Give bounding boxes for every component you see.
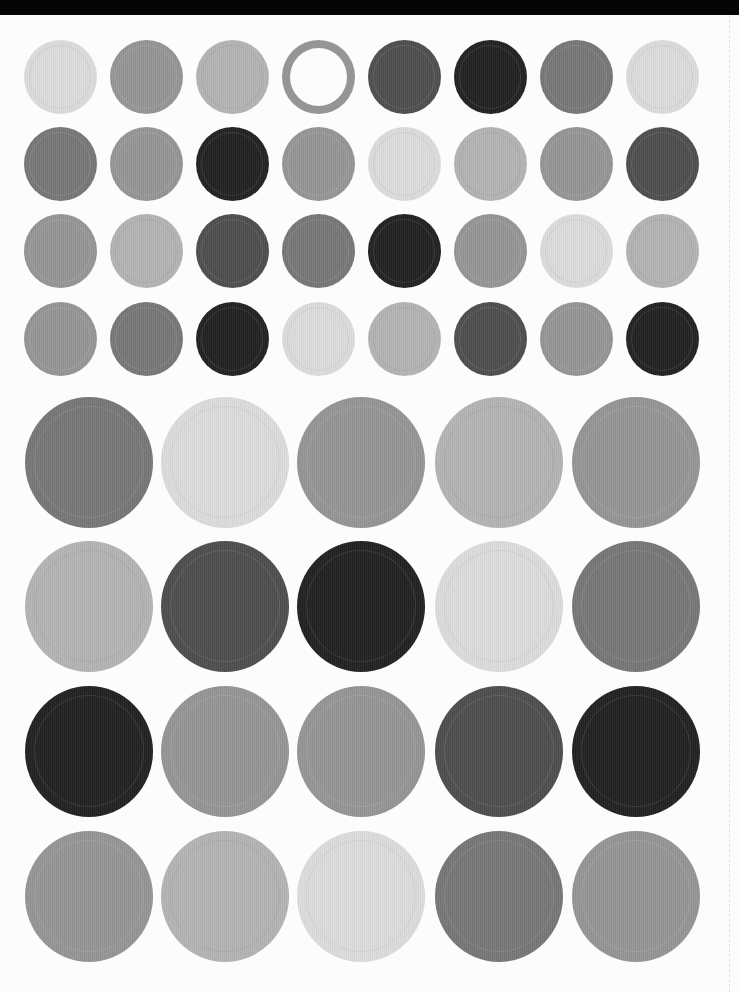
circle-inner-outline [545, 132, 608, 196]
circle-inner-outline [115, 132, 178, 196]
circle-inner-outline [201, 132, 264, 196]
large-grid-circle [572, 831, 700, 962]
circle-inner-outline [631, 307, 694, 371]
circle-inner-outline [306, 550, 416, 663]
circle-inner-outline [373, 219, 436, 283]
large-grid-circle [25, 541, 153, 672]
circle-inner-outline [29, 219, 92, 283]
small-grid-circle [24, 302, 97, 376]
small-grid-circle [368, 214, 441, 288]
circle-inner-outline [581, 550, 691, 663]
circle-inner-outline [373, 132, 436, 196]
small-grid-circle [368, 127, 441, 201]
circle-inner-outline [34, 840, 144, 953]
large-grid-circle [161, 686, 289, 817]
small-grid-circle [626, 40, 699, 114]
small-grid-circle [454, 40, 527, 114]
small-grid-circle [368, 40, 441, 114]
small-grid-circle [110, 302, 183, 376]
small-grid-circle [110, 214, 183, 288]
circle-inner-outline [444, 695, 554, 808]
circle-inner-outline [29, 132, 92, 196]
large-grid-circle [297, 397, 425, 528]
small-grid-circle [454, 214, 527, 288]
large-grid-circle [297, 686, 425, 817]
large-grid-circle [25, 831, 153, 962]
circle-inner-outline [170, 840, 280, 953]
circle-inner-outline [581, 406, 691, 519]
small-grid-circle [24, 214, 97, 288]
small-grid-circle [282, 40, 355, 114]
small-grid-circle [196, 40, 269, 114]
small-grid-circle [540, 214, 613, 288]
circle-inner-outline [545, 45, 608, 109]
large-grid-circle [161, 831, 289, 962]
circle-inner-outline [306, 840, 416, 953]
large-grid-circle [435, 831, 563, 962]
small-grid-circle [282, 127, 355, 201]
small-grid-circle [196, 302, 269, 376]
circle-inner-outline [287, 307, 350, 371]
sticker-sheet [0, 0, 739, 992]
small-grid-circle [626, 214, 699, 288]
circle-inner-outline [287, 219, 350, 283]
circle-inner-outline [34, 695, 144, 808]
large-grid-circle [161, 397, 289, 528]
circle-inner-outline [170, 406, 280, 519]
circle-inner-outline [34, 406, 144, 519]
large-grid-circle [161, 541, 289, 672]
circle-inner-outline [459, 132, 522, 196]
small-grid-circle [626, 302, 699, 376]
small-grid-circle [540, 40, 613, 114]
circle-inner-outline [201, 45, 264, 109]
circle-inner-outline [201, 307, 264, 371]
circle-inner-outline [581, 695, 691, 808]
circle-inner-outline [444, 840, 554, 953]
circle-inner-outline [631, 45, 694, 109]
circle-inner-outline [306, 406, 416, 519]
circle-inner-outline [29, 307, 92, 371]
small-grid-circle [196, 214, 269, 288]
circle-inner-outline [115, 219, 178, 283]
small-grid-circle [626, 127, 699, 201]
large-grid-circle [25, 686, 153, 817]
circle-inner-outline [287, 132, 350, 196]
small-grid-circle [368, 302, 441, 376]
circle-inner-outline [459, 307, 522, 371]
small-grid-circle [282, 302, 355, 376]
small-grid-circle [540, 127, 613, 201]
large-grid-circle [297, 831, 425, 962]
circle-inner-outline [373, 45, 436, 109]
circle-inner-outline [115, 307, 178, 371]
large-grid-circle [435, 541, 563, 672]
large-grid-circle [25, 397, 153, 528]
small-grid-circle [196, 127, 269, 201]
large-grid-circle [435, 397, 563, 528]
circle-inner-outline [34, 550, 144, 663]
right-edge-perforation [729, 15, 730, 992]
large-grid-circle [435, 686, 563, 817]
circle-inner-outline [581, 840, 691, 953]
circle-inner-outline [373, 307, 436, 371]
circle-inner-outline [170, 695, 280, 808]
small-grid-circle [282, 214, 355, 288]
circle-inner-outline [444, 550, 554, 663]
circle-inner-outline [115, 45, 178, 109]
circle-inner-outline [631, 132, 694, 196]
large-grid-circle [297, 541, 425, 672]
circle-inner-outline [631, 219, 694, 283]
circle-inner-outline [459, 45, 522, 109]
small-grid-circle [110, 40, 183, 114]
large-grid-circle [572, 397, 700, 528]
circle-inner-outline [545, 219, 608, 283]
circle-inner-outline [545, 307, 608, 371]
small-grid-circle [110, 127, 183, 201]
large-grid-circle [572, 686, 700, 817]
circle-inner-outline [29, 45, 92, 109]
small-grid-circle [454, 127, 527, 201]
circle-inner-outline [459, 219, 522, 283]
small-grid-circle [24, 127, 97, 201]
small-grid-circle [540, 302, 613, 376]
small-grid-circle [454, 302, 527, 376]
circle-inner-outline [170, 550, 280, 663]
